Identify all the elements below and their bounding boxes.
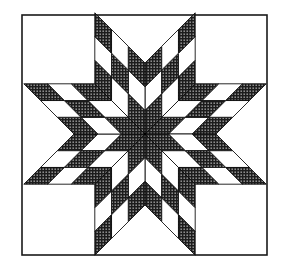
- quilt-block-figure: [0, 0, 283, 267]
- star-center: [144, 133, 146, 135]
